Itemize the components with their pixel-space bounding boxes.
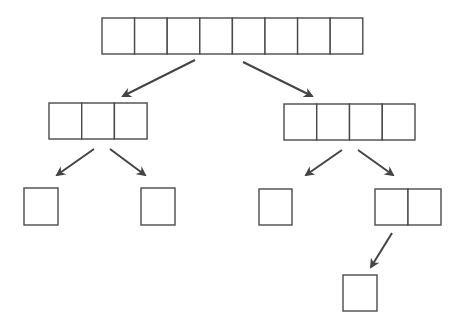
array-node-right-right-left [343,275,377,311]
arrow-root-to-left [123,60,195,96]
array-cell [382,104,415,140]
arrow-root-to-right [243,62,312,96]
array-cell [102,18,135,54]
array-cell [232,18,265,54]
array-cell [330,18,363,54]
array-cell [200,18,233,54]
array-cell [141,188,175,225]
array-node-left-left [24,188,58,225]
array-cell [375,189,408,225]
arrow-left-to-left-right [110,149,145,175]
array-cell [298,18,331,54]
array-cell [408,189,441,225]
array-cell [317,104,350,140]
arrow-right-right-to-right-right-left [371,233,392,267]
array-cell [259,189,292,225]
array-cell [49,103,82,139]
array-cell [350,104,383,140]
arrows-group [57,60,393,267]
array-node-root [102,18,363,54]
array-cell [114,103,147,139]
array-cell [24,188,58,225]
array-cell [167,18,200,54]
arrow-right-to-right-left [306,150,342,175]
array-cell [343,275,377,311]
array-node-right-right [375,189,441,225]
array-cell [135,18,168,54]
array-cell [265,18,298,54]
array-cell [82,103,115,139]
arrow-left-to-left-left [57,149,94,175]
array-node-right-left [259,189,292,225]
array-node-right [284,104,415,140]
array-split-tree-diagram [0,0,463,328]
arrow-right-to-right-right [358,150,393,175]
array-cell [284,104,317,140]
array-node-left [49,103,147,139]
array-node-left-right [141,188,175,225]
